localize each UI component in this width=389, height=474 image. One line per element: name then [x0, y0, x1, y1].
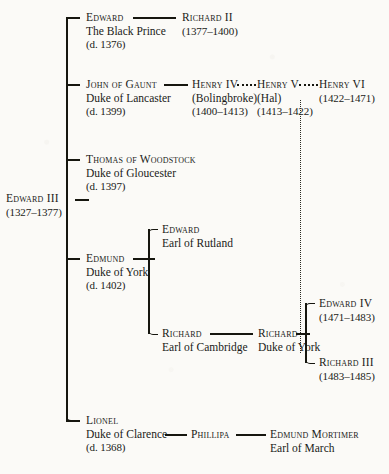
family-tree-diagram: Edward III (1327–1377) Edward The Black …	[0, 0, 389, 474]
node-richard-iii: Richard III (1483–1485)	[319, 356, 375, 383]
node-edmund-mortimer-name: Edmund Mortimer	[270, 428, 359, 442]
connector-branch-black-prince	[66, 17, 80, 19]
node-thomas-woodstock-name: Thomas of Woodstock	[86, 153, 196, 167]
node-lionel: Lionel Duke of Clarence (d. 1368)	[86, 414, 167, 455]
node-lionel-title: Duke of Clarence	[86, 428, 167, 442]
connector-root-stem	[75, 199, 89, 201]
node-edward-iii-dates: (1327–1377)	[6, 206, 62, 220]
node-henry-vi-dates: (1422–1471)	[319, 92, 375, 106]
connector-edmund-children-top-cap	[148, 229, 158, 239]
connector-lancaster-succession-vertical	[300, 100, 301, 353]
node-john-of-gaunt-title: Duke of Lancaster	[86, 92, 171, 106]
node-lionel-dates: (d. 1368)	[86, 441, 167, 455]
node-edward-iii: Edward III (1327–1377)	[6, 192, 62, 219]
node-edmund-mortimer-title: Earl of March	[270, 442, 359, 456]
node-edward-iv: Edward IV (1471–1483)	[319, 297, 375, 324]
node-edmund-mortimer: Edmund Mortimer Earl of March	[270, 428, 359, 455]
node-richard-york-name: Richard	[258, 327, 320, 341]
connector-lionel-to-phillipa	[165, 434, 187, 436]
node-richard-cambridge: Richard Earl of Cambridge	[162, 327, 248, 354]
node-edward-iii-name: Edward III	[6, 192, 62, 206]
node-richard-york-title: Duke of York	[258, 341, 320, 355]
connector-york-children-top-cap	[305, 303, 315, 313]
connector-york-children-bottom-cap	[305, 354, 315, 364]
node-edward-rutland-title: Earl of Rutland	[162, 237, 233, 251]
connector-richard-york-stem	[296, 333, 310, 335]
node-henry-vi: Henry VI (1422–1471)	[319, 78, 375, 105]
node-richard-york: Richard Duke of York	[258, 327, 320, 354]
connector-gaunt-to-henry-iv	[164, 84, 188, 86]
connector-branch-thomas-woodstock	[66, 159, 80, 161]
connector-branch-john-of-gaunt	[66, 84, 80, 86]
node-edward-iv-dates: (1471–1483)	[319, 311, 375, 325]
node-edmund-york-dates: (d. 1402)	[86, 279, 148, 293]
node-john-of-gaunt: John of Gaunt Duke of Lancaster (d. 1399…	[86, 78, 171, 119]
node-richard-ii: Richard II (1377–1400)	[182, 11, 238, 38]
node-edward-rutland: Edward Earl of Rutland	[162, 223, 233, 250]
connector-phillipa-to-mortimer	[236, 434, 266, 436]
node-lionel-name: Lionel	[86, 414, 167, 428]
node-richard-ii-dates: (1377–1400)	[182, 25, 238, 39]
node-henry-vi-name: Henry VI	[319, 78, 375, 92]
connector-edmund-stem	[133, 258, 155, 260]
node-henry-v-title: (Hal)	[257, 92, 313, 106]
node-edward-rutland-name: Edward	[162, 223, 233, 237]
node-henry-iv-dates: (1400–1413)	[192, 105, 257, 119]
connector-black-prince-to-richard-ii	[133, 17, 176, 19]
node-john-of-gaunt-dates: (d. 1399)	[86, 105, 171, 119]
connector-main-spine	[66, 17, 68, 420]
connector-edmund-children-bottom-cap	[148, 325, 158, 335]
node-richard-ii-name: Richard II	[182, 11, 238, 25]
connector-henry-iv-to-henry-v	[237, 84, 256, 86]
connector-edmund-children-spine	[148, 229, 150, 334]
node-john-of-gaunt-name: John of Gaunt	[86, 78, 171, 92]
node-henry-iv-title: (Bolingbroke)	[192, 92, 257, 106]
node-phillipa: Phillipa	[191, 428, 229, 442]
node-black-prince-title: The Black Prince	[86, 25, 166, 39]
node-phillipa-name: Phillipa	[191, 428, 229, 442]
node-edmund-york-title: Duke of York	[86, 266, 148, 280]
node-thomas-woodstock: Thomas of Woodstock Duke of Gloucester (…	[86, 153, 196, 194]
node-edward-iv-name: Edward IV	[319, 297, 375, 311]
connector-branch-edmund-york	[66, 258, 80, 260]
node-black-prince-dates: (d. 1376)	[86, 38, 166, 52]
connector-branch-lionel	[66, 420, 80, 422]
node-richard-iii-name: Richard III	[319, 356, 375, 370]
connector-cambridge-to-york	[210, 333, 253, 335]
node-henry-v-dates: (1413–1422)	[257, 105, 313, 119]
node-richard-cambridge-title: Earl of Cambridge	[162, 341, 248, 355]
connector-henry-v-to-henry-vi	[299, 84, 318, 86]
node-richard-iii-dates: (1483–1485)	[319, 370, 375, 384]
node-thomas-woodstock-dates: (d. 1397)	[86, 180, 196, 194]
node-thomas-woodstock-title: Duke of Gloucester	[86, 167, 196, 181]
